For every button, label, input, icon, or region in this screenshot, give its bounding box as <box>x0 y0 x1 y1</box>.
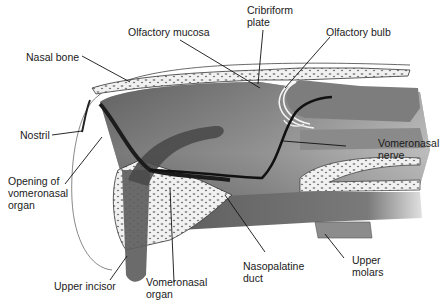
upper-molars-shape <box>315 222 372 238</box>
label-upper-incisor: Upper incisor <box>54 280 116 292</box>
olfactory-bulb-shape <box>286 80 420 122</box>
label-vomeronasal-organ: Vomeronasal organ <box>146 276 207 300</box>
label-upper-molars: Upper molars <box>352 254 384 278</box>
label-vomeronasal-nerve: Vomeronasal nerve <box>378 137 439 161</box>
upper-incisor-shape <box>122 170 150 282</box>
label-cribriform-plate: Cribriform plate <box>247 4 293 28</box>
label-opening-vomeronasal-organ: Opening of vomeronasal organ <box>8 175 68 211</box>
label-olfactory-bulb: Olfactory bulb <box>326 26 391 38</box>
label-nasopalatine-duct: Nasopalatine duct <box>243 260 304 284</box>
anatomy-diagram: Olfactory mucosa Cribriform plate Olfact… <box>0 0 447 301</box>
label-olfactory-mucosa: Olfactory mucosa <box>128 26 210 38</box>
label-nasal-bone: Nasal bone <box>26 51 79 63</box>
label-nostril: Nostril <box>20 129 50 141</box>
